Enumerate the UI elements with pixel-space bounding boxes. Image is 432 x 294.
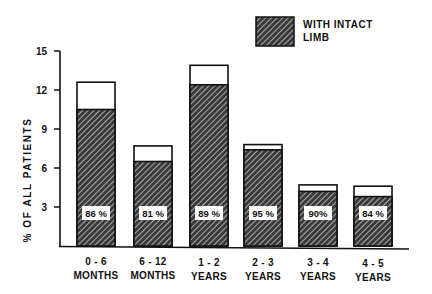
pct-label: 81 % bbox=[142, 208, 164, 219]
category-label-range: 4 - 5 bbox=[362, 258, 384, 269]
y-tick-label: 12 bbox=[36, 85, 48, 96]
x-axis bbox=[59, 247, 409, 250]
category-label-unit: MONTHS bbox=[130, 270, 175, 281]
category-label-range: 0 - 6 bbox=[85, 256, 107, 267]
bar-group: 89 % bbox=[190, 65, 228, 246]
legend-swatch-hatched bbox=[256, 17, 294, 46]
bar-group: 81 % bbox=[134, 146, 172, 246]
legend: WITH INTACT LIMB bbox=[256, 17, 373, 46]
bar-chart: WITH INTACT LIMB % OF ALL PATIENTS 36912… bbox=[0, 0, 432, 294]
category-label-unit: YEARS bbox=[245, 271, 281, 282]
y-tick-label: 15 bbox=[36, 46, 48, 57]
legend-label-line2: LIMB bbox=[303, 32, 329, 43]
category-label-range: 6 - 12 bbox=[139, 256, 167, 267]
category-label-unit: MONTHS bbox=[73, 270, 118, 281]
category-label-unit: YEARS bbox=[191, 271, 227, 282]
bar-group: 84 % bbox=[354, 186, 392, 246]
pct-label: 95 % bbox=[252, 208, 274, 219]
bar-intact-limb bbox=[134, 162, 172, 247]
pct-label: 90% bbox=[308, 208, 328, 219]
y-axis-label: % OF ALL PATIENTS bbox=[22, 117, 33, 242]
y-tick-label: 3 bbox=[41, 202, 47, 213]
bar-group: 90% bbox=[299, 185, 337, 246]
category-labels: 0 - 6MONTHS6 - 12MONTHS1 - 2YEARS2 - 3YE… bbox=[73, 256, 391, 283]
pct-label: 89 % bbox=[198, 208, 220, 219]
bar-group: 86 % bbox=[77, 82, 115, 246]
bar-intact-limb bbox=[77, 110, 115, 247]
category-label-range: 2 - 3 bbox=[252, 257, 274, 268]
pct-label: 86 % bbox=[85, 208, 107, 219]
y-axis: 3691215 bbox=[36, 46, 60, 248]
category-label-range: 1 - 2 bbox=[198, 257, 220, 268]
y-tick-label: 6 bbox=[41, 163, 47, 174]
bar-intact-limb bbox=[190, 85, 228, 246]
y-tick-label: 9 bbox=[41, 124, 47, 135]
legend-label-line1: WITH INTACT bbox=[303, 19, 373, 30]
bars: 86 %81 %89 %95 %90%84 % bbox=[77, 65, 392, 246]
pct-label: 84 % bbox=[362, 208, 384, 219]
bar-intact-limb bbox=[244, 150, 282, 246]
category-label-unit: YEARS bbox=[355, 272, 391, 283]
bar-group: 95 % bbox=[244, 145, 282, 246]
category-label-range: 3 - 4 bbox=[307, 257, 329, 268]
bar-intact-limb bbox=[354, 197, 392, 246]
category-label-unit: YEARS bbox=[300, 271, 336, 282]
